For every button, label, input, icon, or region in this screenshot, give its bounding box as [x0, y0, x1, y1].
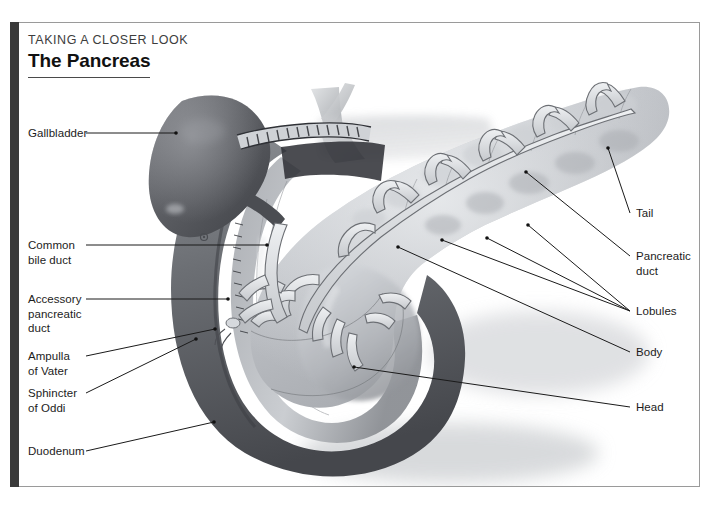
label-ampulla-of-vater: Ampulla of Vater: [28, 349, 70, 378]
kicker-text: TAKING A CLOSER LOOK: [28, 32, 328, 48]
label-body: Body: [636, 345, 662, 360]
label-head: Head: [636, 400, 664, 415]
left-accent-bar: [10, 22, 19, 487]
label-sphincter-of-oddi: Sphincter of Oddi: [28, 386, 77, 415]
label-tail: Tail: [636, 206, 653, 221]
label-common-bile-duct: Common bile duct: [28, 238, 75, 267]
label-lobules: Lobules: [636, 304, 677, 319]
gallbladder-shape: [149, 95, 285, 237]
label-pancreatic-duct: Pancreatic duct: [636, 249, 691, 278]
header: TAKING A CLOSER LOOK The Pancreas: [28, 32, 328, 73]
pancreas-illustration: [19, 23, 700, 486]
figure-page: TAKING A CLOSER LOOK The Pancreas Gallbl…: [0, 0, 717, 509]
label-duodenum: Duodenum: [28, 444, 85, 459]
label-accessory-pancreatic-duct: Accessory pancreatic duct: [28, 292, 82, 336]
label-gallbladder: Gallbladder: [28, 126, 87, 141]
header-rule: [28, 77, 150, 78]
page-title: The Pancreas: [28, 49, 328, 73]
